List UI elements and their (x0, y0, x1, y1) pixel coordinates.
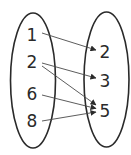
domain-label-2: 2 (27, 52, 38, 72)
domain-label-6: 6 (27, 84, 38, 104)
arrow-6-to-5 (42, 95, 96, 109)
range-label-3: 3 (100, 71, 111, 91)
mapping-diagram: 1 2 6 8 2 3 5 (0, 0, 131, 155)
arrow-2-to-5 (42, 66, 96, 105)
arrow-2-to-3 (42, 63, 96, 78)
range-label-5: 5 (100, 101, 111, 121)
domain-label-8: 8 (27, 111, 38, 131)
domain-label-1: 1 (27, 25, 38, 45)
range-label-2: 2 (100, 42, 111, 62)
